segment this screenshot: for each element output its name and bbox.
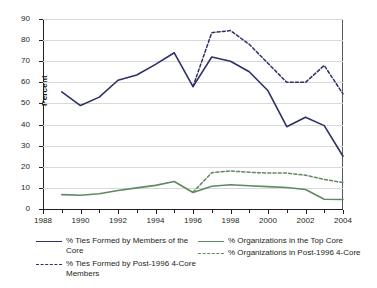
y-tick-label: 80 <box>6 36 30 44</box>
y-tick-label: 70 <box>6 57 30 65</box>
x-tick-mark <box>231 210 232 214</box>
x-tick-mark <box>268 210 269 214</box>
gridline <box>43 19 343 20</box>
gridline <box>43 103 343 104</box>
x-tick-mark <box>118 210 119 214</box>
x-tick-mark-minor <box>324 210 325 213</box>
x-tick-label: 2004 <box>323 216 363 225</box>
legend-swatch-navy-dashed <box>36 260 62 269</box>
y-tick-label: 90 <box>6 15 30 23</box>
x-tick-mark <box>81 210 82 214</box>
plot-area <box>43 19 343 209</box>
y-tick-mark <box>39 19 43 20</box>
gridline <box>43 61 343 62</box>
y-tick-label: 20 <box>6 163 30 171</box>
x-tick-label: 1990 <box>61 216 101 225</box>
x-tick-label: 2002 <box>286 216 326 225</box>
legend-label: % Organizations in Post-1996 4-Core <box>228 248 361 258</box>
x-tick-mark-minor <box>99 210 100 213</box>
y-tick-mark <box>39 61 43 62</box>
y-tick-label: 60 <box>6 78 30 86</box>
gridline <box>43 167 343 168</box>
line-chart-figure: Percent 0102030405060708090 198819901992… <box>0 0 377 288</box>
x-tick-label: 1988 <box>23 216 63 225</box>
x-tick-label: 1998 <box>211 216 251 225</box>
x-tick-mark <box>43 210 44 214</box>
chart-legend: % Ties Formed by Members of the Core % T… <box>36 236 372 286</box>
x-tick-mark <box>343 210 344 214</box>
x-tick-label: 1994 <box>136 216 176 225</box>
gridline <box>43 82 343 83</box>
legend-swatch-green-solid <box>198 237 224 246</box>
x-tick-mark-minor <box>249 210 250 213</box>
x-tick-mark-minor <box>212 210 213 213</box>
gridline <box>43 188 343 189</box>
y-tick-mark <box>39 167 43 168</box>
y-axis-line <box>43 19 44 210</box>
legend-swatch-navy-solid <box>36 237 62 246</box>
legend-entry-ties-post1996: % Ties Formed by Post-1996 4-Core Member… <box>36 259 196 279</box>
gridline <box>43 125 343 126</box>
x-tick-label: 1996 <box>173 216 213 225</box>
y-tick-mark <box>39 146 43 147</box>
legend-entry-orgs-top-core: % Organizations in the Top Core <box>198 236 377 246</box>
legend-label: % Ties Formed by Members of the Core <box>66 236 196 256</box>
legend-entry-ties-core: % Ties Formed by Members of the Core <box>36 236 196 256</box>
legend-entry-orgs-post1996: % Organizations in Post-1996 4-Core <box>198 248 377 258</box>
y-tick-mark <box>39 103 43 104</box>
x-tick-mark-minor <box>62 210 63 213</box>
x-tick-mark-minor <box>287 210 288 213</box>
y-tick-mark <box>39 82 43 83</box>
x-tick-mark <box>156 210 157 214</box>
legend-label: % Ties Formed by Post-1996 4-Core Member… <box>66 259 196 279</box>
y-tick-mark <box>39 125 43 126</box>
x-tick-mark-minor <box>137 210 138 213</box>
legend-label: % Organizations in the Top Core <box>228 236 343 246</box>
x-tick-label: 2000 <box>248 216 288 225</box>
y-tick-label: 0 <box>6 205 30 213</box>
y-tick-label: 50 <box>6 99 30 107</box>
y-tick-label: 40 <box>6 121 30 129</box>
y-tick-label: 10 <box>6 184 30 192</box>
x-tick-mark <box>193 210 194 214</box>
x-tick-mark-minor <box>174 210 175 213</box>
x-tick-mark <box>306 210 307 214</box>
x-tick-label: 1992 <box>98 216 138 225</box>
gridline <box>43 146 343 147</box>
y-tick-label: 30 <box>6 142 30 150</box>
legend-swatch-green-dashed <box>198 249 224 258</box>
y-tick-mark <box>39 188 43 189</box>
gridline <box>43 40 343 41</box>
y-tick-mark <box>39 40 43 41</box>
